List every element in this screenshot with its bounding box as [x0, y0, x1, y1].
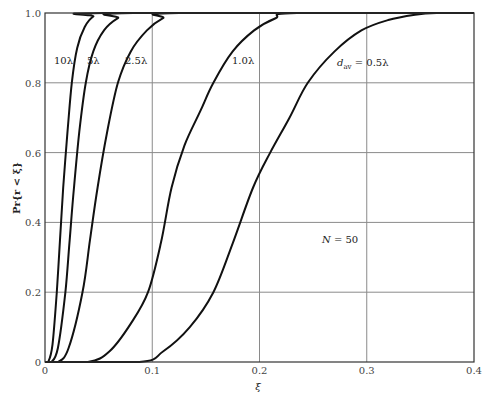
y-tick-label: 0.8 [25, 78, 41, 89]
x-tick-label: 0.3 [359, 365, 375, 376]
curve-label-10: 10λ [54, 55, 74, 66]
y-tick-label: 0.4 [25, 217, 41, 228]
curve-label-0-5-sub: av [343, 63, 351, 71]
cdf-chart: 00.10.20.30.4 00.20.40.60.81.0 10λ 5λ 2.… [0, 0, 484, 399]
x-tick-label: 0 [42, 365, 48, 376]
annotation-n: N = 50 [321, 234, 358, 245]
y-axis-label: Pr{r < ξ} [11, 162, 22, 214]
y-tick-label: 0.6 [25, 148, 41, 159]
y-tick-label: 1.0 [25, 8, 41, 19]
x-tick-label: 0.1 [144, 365, 160, 376]
y-tick-label: 0 [35, 357, 41, 368]
x-tick-label: 0.4 [466, 365, 482, 376]
y-tick-label: 0.2 [25, 287, 41, 298]
x-axis-ticks: 00.10.20.30.4 [42, 365, 482, 376]
curve-label-1-0: 1.0λ [232, 55, 255, 66]
y-axis-ticks: 00.20.40.60.81.0 [25, 8, 41, 368]
curve-label-0-5: dav = 0.5λ [337, 57, 389, 71]
annotation-n-value: = 50 [331, 234, 358, 245]
grid-lines [45, 13, 474, 362]
x-tick-label: 0.2 [252, 365, 268, 376]
curve-label-5: 5λ [87, 55, 100, 66]
x-axis-label: ξ [255, 381, 261, 392]
curve-label-0-5-value: = 0.5λ [352, 57, 390, 68]
curve-label-2-5: 2.5λ [125, 55, 148, 66]
